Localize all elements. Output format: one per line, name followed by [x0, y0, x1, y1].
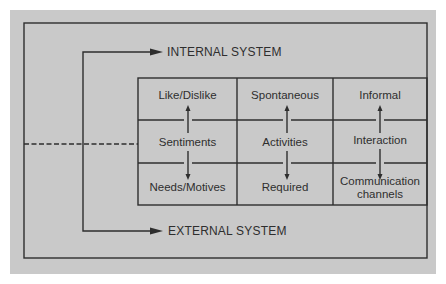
cell-sentiments: Sentiments	[138, 136, 237, 149]
cell-like-dislike: Like/Dislike	[138, 89, 237, 102]
external-arrowhead	[150, 228, 163, 235]
cell-activities: Activities	[237, 136, 333, 149]
external-system-label: EXTERNAL SYSTEM	[168, 224, 287, 238]
cell-informal: Informal	[333, 89, 427, 102]
cell-interaction: Interaction	[333, 134, 427, 147]
cell-spontaneous: Spontaneous	[237, 89, 333, 102]
cell-needs-motives: Needs/Motives	[138, 181, 237, 194]
internal-system-label: INTERNAL SYSTEM	[167, 45, 282, 59]
cell-channels: channels	[333, 188, 427, 201]
cell-communication: Communication	[333, 175, 427, 188]
internal-arrowhead	[150, 49, 163, 56]
cell-required: Required	[237, 181, 333, 194]
